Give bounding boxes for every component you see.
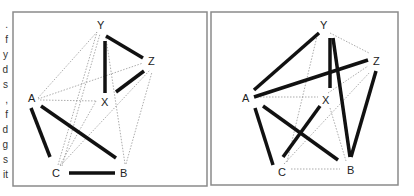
node-label-b: B <box>120 167 127 179</box>
node-label-x: X <box>101 96 109 108</box>
node-label-z: Z <box>373 55 380 67</box>
node-label-a: A <box>28 92 36 104</box>
right-node-labels: Y Z X A C B <box>242 19 380 178</box>
graph-figure: Y Z X A C B Y Z X A C B <box>0 0 414 196</box>
node-label-a: A <box>242 92 250 104</box>
right-panel-frame <box>211 12 398 185</box>
left-node-labels: Y Z X A C B <box>28 19 155 179</box>
node-label-z: Z <box>148 55 155 67</box>
node-label-x: X <box>322 94 330 106</box>
node-label-c: C <box>278 166 286 178</box>
node-label-y: Y <box>320 19 328 31</box>
left-thick-edges <box>31 36 144 173</box>
node-label-b: B <box>347 164 354 176</box>
node-label-y: Y <box>97 19 105 31</box>
node-label-c: C <box>52 167 60 179</box>
right-thick-edges <box>254 33 376 165</box>
